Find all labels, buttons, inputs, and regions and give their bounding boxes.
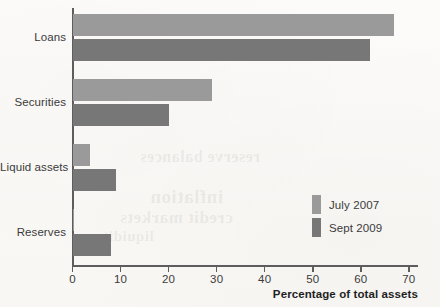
category-label-loans: Loans — [0, 31, 66, 43]
x-tick-30 — [216, 266, 218, 272]
legend-label-july-2007: July 2007 — [329, 199, 379, 211]
bar-securities-sept-2009 — [73, 104, 169, 126]
bar-loans-sept-2009 — [73, 39, 371, 61]
x-tick-label-0: 0 — [69, 273, 76, 285]
bar-securities-july-2007 — [73, 79, 212, 101]
category-label-reserves: Reserves — [0, 226, 66, 238]
x-tick-50 — [312, 266, 314, 272]
x-tick-label-10: 10 — [114, 273, 127, 285]
category-label-liquid-assets: Liquid assets — [0, 161, 66, 173]
x-tick-label-30: 30 — [210, 273, 223, 285]
legend-label-sept-2009: Sept 2009 — [329, 222, 382, 234]
x-tick-label-50: 50 — [306, 273, 319, 285]
legend-swatch-july-2007 — [312, 195, 321, 214]
x-tick-10 — [120, 266, 122, 272]
x-tick-60 — [360, 266, 362, 272]
x-tick-label-20: 20 — [162, 273, 175, 285]
legend-item-july-2007: July 2007 — [312, 194, 382, 215]
x-tick-0 — [72, 266, 74, 272]
x-tick-70 — [408, 266, 410, 272]
bar-reserves-july-2007 — [73, 209, 75, 231]
x-tick-label-70: 70 — [402, 273, 415, 285]
chart-legend: July 2007 Sept 2009 — [312, 194, 382, 240]
bar-liquid-assets-july-2007 — [73, 144, 91, 166]
category-label-securities: Securities — [0, 96, 66, 108]
x-tick-label-40: 40 — [258, 273, 271, 285]
bar-chart: 010203040506070 LoansSecuritiesLiquid as… — [0, 0, 440, 307]
x-tick-20 — [168, 266, 170, 272]
x-axis-title: Percentage of total assets — [273, 288, 418, 300]
legend-item-sept-2009: Sept 2009 — [312, 217, 382, 238]
bar-loans-july-2007 — [73, 14, 395, 36]
bar-reserves-sept-2009 — [73, 234, 111, 256]
x-tick-label-60: 60 — [354, 273, 367, 285]
x-axis-line — [72, 265, 418, 267]
legend-swatch-sept-2009 — [312, 218, 321, 237]
bar-liquid-assets-sept-2009 — [73, 169, 116, 191]
x-tick-40 — [264, 266, 266, 272]
